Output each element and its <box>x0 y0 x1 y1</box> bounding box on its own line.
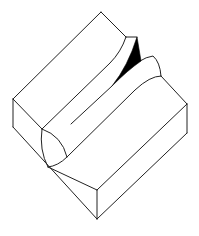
crack-opening <box>112 37 141 86</box>
weld-block-diagram <box>0 0 199 236</box>
weld-cross-section <box>41 129 67 167</box>
block-outline <box>13 12 187 219</box>
weld-bead <box>42 37 161 157</box>
